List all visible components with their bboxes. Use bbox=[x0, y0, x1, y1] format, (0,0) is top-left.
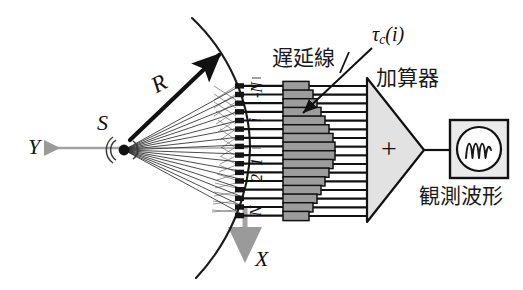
x-axis-label: X bbox=[255, 248, 268, 270]
radius-arrow bbox=[130, 55, 219, 140]
tau-label: τc(i) bbox=[372, 24, 404, 47]
delay-block bbox=[283, 133, 333, 142]
oscilloscope bbox=[450, 120, 508, 178]
array-index-label-2: 2 bbox=[249, 174, 265, 182]
source-label: S bbox=[97, 112, 108, 134]
array-index-label-n: N bbox=[248, 206, 264, 217]
delay-block bbox=[283, 194, 317, 203]
delay-block bbox=[283, 151, 335, 160]
tau-argument: (i) bbox=[385, 23, 404, 45]
delay-block bbox=[283, 203, 313, 212]
delay-block bbox=[283, 116, 325, 125]
y-axis-label: Y bbox=[28, 136, 40, 158]
delay-block bbox=[283, 81, 309, 90]
array-index-label-minus-n: -N bbox=[249, 82, 265, 98]
delay-block bbox=[283, 211, 309, 220]
observed-waveform-label: 観測波形 bbox=[419, 186, 503, 207]
delay-block bbox=[283, 159, 333, 168]
delay-block bbox=[283, 125, 329, 134]
delay-block bbox=[283, 177, 325, 186]
delay-block bbox=[283, 142, 335, 151]
delay-block bbox=[283, 107, 321, 116]
delay-line-label: 遅延線 bbox=[272, 48, 335, 69]
delay-block bbox=[283, 185, 321, 194]
ray-fan bbox=[124, 86, 240, 213]
array-index-label-1: 1 bbox=[249, 158, 265, 166]
array-elements bbox=[235, 83, 244, 218]
delay-block bbox=[283, 90, 313, 99]
figure-canvas: Y X S R 遅延線 τc(i) 加算器 + 観測波形 -N i 1 2 N bbox=[0, 0, 523, 290]
delay-block bbox=[283, 168, 329, 177]
adder-plus-sign: + bbox=[381, 135, 397, 163]
array-index-label-i: i bbox=[247, 118, 263, 122]
adder-label: 加算器 bbox=[376, 68, 439, 89]
